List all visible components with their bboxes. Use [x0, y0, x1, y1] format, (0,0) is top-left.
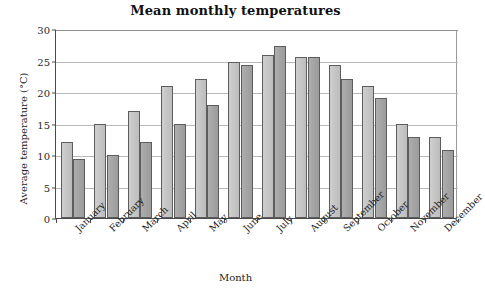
- bar-group: [56, 29, 90, 218]
- y-tick-label: 20: [37, 88, 50, 99]
- y-tick-label: 5: [44, 182, 50, 193]
- bar-group: [224, 29, 258, 218]
- y-tick-label: 30: [37, 25, 50, 36]
- x-tick-mark: [391, 219, 392, 223]
- x-tick-mark: [257, 219, 258, 223]
- bar-group: [157, 29, 191, 218]
- x-tick-mark: [90, 219, 91, 223]
- y-tick-label: 10: [37, 151, 50, 162]
- bar-group: [425, 29, 459, 218]
- bar: [295, 57, 307, 218]
- x-tick-mark: [157, 219, 158, 223]
- bar: [241, 65, 253, 218]
- chart-title: Mean monthly temperatures: [0, 3, 471, 18]
- y-tick-label: 0: [44, 214, 50, 225]
- x-tick-mark: [190, 219, 191, 223]
- bar-group: [391, 29, 425, 218]
- x-tick-mark: [425, 219, 426, 223]
- y-axis-title: Average temperature (°C): [18, 54, 29, 224]
- bar: [73, 159, 85, 218]
- bar-group: [257, 29, 291, 218]
- bar: [61, 142, 73, 218]
- bar: [442, 150, 454, 218]
- x-tick-mark: [458, 219, 459, 223]
- x-tick-mark: [324, 219, 325, 223]
- bar: [228, 62, 240, 218]
- y-tick-label: 15: [37, 119, 50, 130]
- bar: [341, 79, 353, 218]
- bar-group: [90, 29, 124, 218]
- x-tick-mark: [224, 219, 225, 223]
- bar: [107, 155, 119, 218]
- y-tick-label: 25: [37, 56, 50, 67]
- bar: [161, 86, 173, 218]
- bar: [207, 105, 219, 218]
- x-tick-mark: [123, 219, 124, 223]
- bar-group: [190, 29, 224, 218]
- x-tick-mark: [291, 219, 292, 223]
- bar: [174, 124, 186, 219]
- bar: [329, 65, 341, 218]
- bar: [262, 55, 274, 218]
- plot-area: 051015202530 JanuaryFebruaryMarchAprilMa…: [55, 30, 457, 219]
- bar-group: [324, 29, 358, 218]
- bar-group: [123, 29, 157, 218]
- bar: [308, 57, 320, 218]
- bar-group: [358, 29, 392, 218]
- bar-series-container: [56, 29, 458, 218]
- x-tick-mark: [56, 219, 57, 223]
- x-tick-mark: [358, 219, 359, 223]
- bar-group: [291, 29, 325, 218]
- bar: [274, 46, 286, 218]
- bar: [195, 79, 207, 218]
- x-axis-title: Month: [0, 272, 471, 283]
